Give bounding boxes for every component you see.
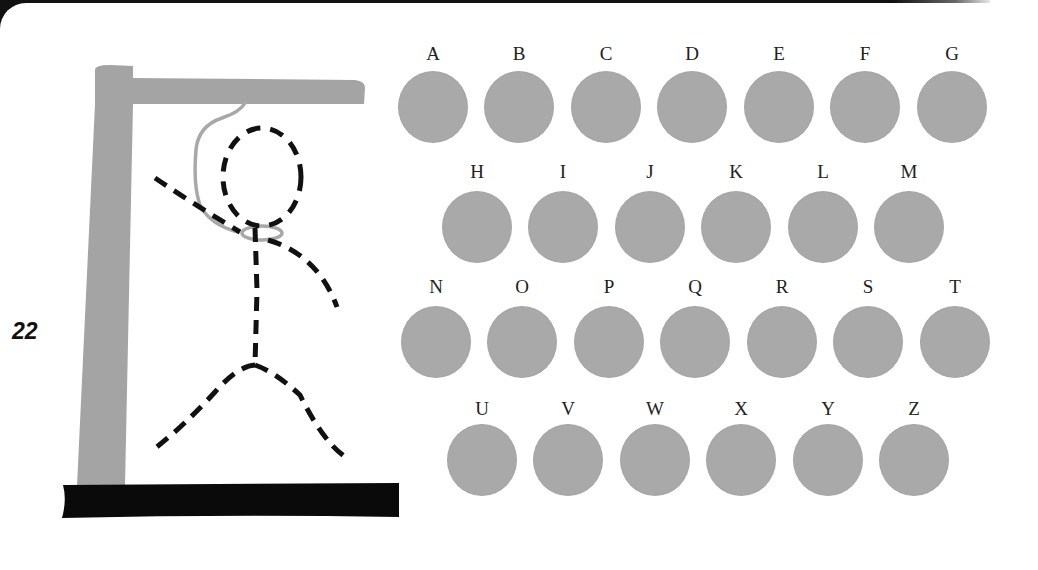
letter-disc[interactable] — [879, 424, 949, 496]
letter-label: L — [788, 161, 858, 183]
letter-disc[interactable] — [701, 191, 771, 263]
body — [255, 228, 257, 365]
letter-label: H — [442, 161, 512, 183]
letter-label: V — [533, 398, 603, 420]
letter-label: K — [701, 161, 771, 183]
letter-button-u[interactable]: U — [447, 0, 517, 100]
letter-label: R — [747, 276, 817, 298]
letter-disc[interactable] — [706, 424, 776, 496]
gallows-post — [77, 65, 133, 486]
letter-label: Y — [793, 398, 863, 420]
left-leg — [153, 365, 255, 450]
letter-label: U — [447, 398, 517, 420]
letter-button-w[interactable]: W — [620, 0, 690, 100]
head — [223, 128, 301, 226]
letter-label: P — [574, 276, 644, 298]
letter-disc[interactable] — [487, 306, 557, 378]
letter-button-v[interactable]: V — [533, 0, 603, 100]
letter-label: J — [615, 161, 685, 183]
letter-button-x[interactable]: X — [706, 0, 776, 100]
letter-button-z[interactable]: Z — [879, 0, 949, 100]
letter-disc[interactable] — [833, 306, 903, 378]
right-leg — [255, 365, 344, 456]
letter-disc[interactable] — [788, 191, 858, 263]
letter-disc[interactable] — [533, 424, 603, 496]
letter-label: N — [401, 276, 471, 298]
letter-disc[interactable] — [874, 191, 944, 263]
letter-label: O — [487, 276, 557, 298]
letter-label: M — [874, 161, 944, 183]
gallows-base — [62, 483, 399, 518]
letter-label: W — [620, 398, 690, 420]
letter-disc[interactable] — [747, 306, 817, 378]
rope-noose — [242, 226, 282, 240]
letter-button-y[interactable]: Y — [793, 0, 863, 100]
letter-label: X — [706, 398, 776, 420]
letter-disc[interactable] — [528, 191, 598, 263]
letter-label: Q — [660, 276, 730, 298]
letter-disc[interactable] — [401, 306, 471, 378]
letter-disc[interactable] — [447, 424, 517, 496]
letter-disc[interactable] — [574, 306, 644, 378]
letter-label: Z — [879, 398, 949, 420]
letter-disc[interactable] — [660, 306, 730, 378]
gallows-beam — [130, 78, 365, 104]
letter-disc[interactable] — [615, 191, 685, 263]
right-arm — [268, 240, 337, 307]
letter-label: I — [528, 161, 598, 183]
letter-disc[interactable] — [920, 306, 990, 378]
letter-label: S — [833, 276, 903, 298]
letter-disc[interactable] — [620, 424, 690, 496]
letter-label: T — [920, 276, 990, 298]
hangman-game: 22 ABCDEFGHIJKLMNOPQRSTUVWXYZ — [0, 0, 1038, 570]
letter-disc[interactable] — [793, 424, 863, 496]
letter-disc[interactable] — [442, 191, 512, 263]
